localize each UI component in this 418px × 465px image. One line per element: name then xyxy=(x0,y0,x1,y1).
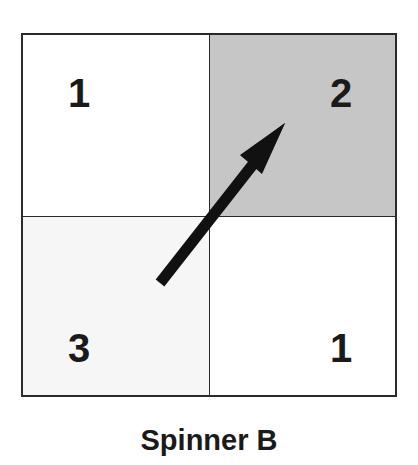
arrow-pointer-icon xyxy=(0,0,418,465)
spinner-title: Spinner B xyxy=(0,424,418,457)
